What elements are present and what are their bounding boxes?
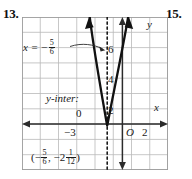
fraction-numerator: 1 (66, 149, 76, 157)
axis-of-symmetry-variable: x = − (23, 41, 48, 53)
fraction-denominator: 6 (49, 47, 55, 56)
vertex-y-mixed-number: −2112 (53, 149, 76, 167)
x-tick-label-2: 2 (142, 127, 148, 138)
vertex-comma: , (48, 151, 51, 163)
fraction-numerator: 5 (49, 39, 55, 47)
vertex-close-paren: ) (76, 151, 80, 163)
vertex-y-fraction: 112 (66, 149, 76, 167)
y-tick-label-4: 4 (108, 74, 114, 85)
axis-of-symmetry-fraction: 56 (49, 39, 55, 57)
figure-page: 13. 15. (0, 0, 192, 179)
problem-number-left: 13. (3, 6, 19, 22)
vertex-x-sign: − (35, 151, 41, 163)
problem-number-right: 15. (166, 6, 182, 22)
axis-of-symmetry-label: x = −56 (23, 39, 55, 57)
fraction-denominator: 6 (41, 157, 47, 166)
fraction-denominator: 12 (66, 157, 76, 166)
y-intercept-label: y-inter: (46, 93, 79, 104)
graph-figure: x = −56 y-inter: 0 (−56, −2112) 6 4 2 −3… (22, 17, 168, 170)
vertex-x-fraction: 56 (41, 149, 47, 167)
origin-label: O (126, 127, 134, 138)
y-tick-label-6: 6 (108, 44, 114, 55)
vertex-coordinate-label: (−56, −2112) (31, 149, 80, 167)
fraction-numerator: 5 (41, 149, 47, 157)
y-intercept-value: 0 (76, 108, 82, 119)
y-axis-name-label: y (147, 19, 152, 30)
y-tick-label-2: 2 (108, 105, 114, 116)
vertex-y-whole: −2 (53, 151, 65, 163)
x-tick-label-minus-3: −3 (64, 127, 76, 138)
x-axis-name-label: x (154, 102, 159, 113)
